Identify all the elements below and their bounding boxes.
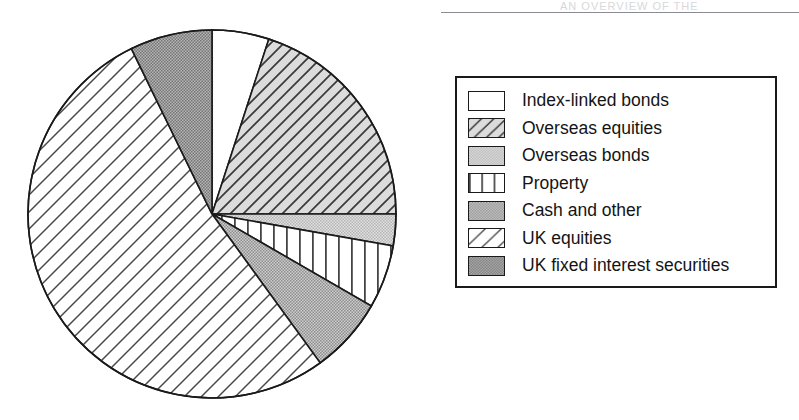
legend-item-overseas-equities[interactable]: Overseas equities	[468, 115, 769, 143]
header-rule	[441, 12, 799, 13]
chart-legend: Index-linked bondsOverseas equitiesOvers…	[455, 76, 777, 288]
scan-header-artifact-text: AN OVERVIEW OF THE	[560, 0, 699, 12]
pie-chart: Index-linked bonds 5%Overseas equities 2…	[26, 28, 398, 400]
legend-swatch-cash-and-other	[468, 201, 505, 221]
pie-chart-svg: Index-linked bonds 5%Overseas equities 2…	[26, 28, 398, 400]
legend-item-cash-and-other[interactable]: Cash and other	[468, 197, 769, 225]
legend-item-overseas-bonds[interactable]: Overseas bonds	[468, 142, 769, 170]
legend-label-uk-fixed-interest-securities: UK fixed interest securities	[522, 257, 729, 275]
pie-slice-group: Index-linked bonds 5%Overseas equities 2…	[28, 30, 396, 398]
legend-swatch-overseas-bonds	[468, 146, 505, 166]
page-root: AN OVERVIEW OF THE	[0, 0, 799, 420]
legend-label-uk-equities: UK equities	[522, 230, 612, 248]
legend-item-uk-equities[interactable]: UK equities	[468, 225, 769, 253]
legend-label-property: Property	[522, 175, 588, 193]
legend-label-cash-and-other: Cash and other	[522, 202, 642, 220]
legend-item-property[interactable]: Property	[468, 170, 769, 198]
legend-item-index-linked-bonds[interactable]: Index-linked bonds	[468, 87, 769, 115]
legend-swatch-index-linked-bonds	[468, 91, 505, 111]
legend-item-uk-fixed-interest-securities[interactable]: UK fixed interest securities	[468, 252, 769, 280]
legend-swatch-overseas-equities	[468, 118, 505, 138]
legend-label-overseas-equities: Overseas equities	[522, 120, 662, 138]
legend-label-overseas-bonds: Overseas bonds	[522, 147, 649, 165]
legend-swatch-property	[468, 173, 505, 193]
legend-item-list: Index-linked bondsOverseas equitiesOvers…	[468, 87, 769, 280]
legend-label-index-linked-bonds: Index-linked bonds	[522, 92, 669, 110]
legend-swatch-uk-fixed-interest-securities	[468, 256, 505, 276]
legend-swatch-uk-equities	[468, 228, 505, 248]
